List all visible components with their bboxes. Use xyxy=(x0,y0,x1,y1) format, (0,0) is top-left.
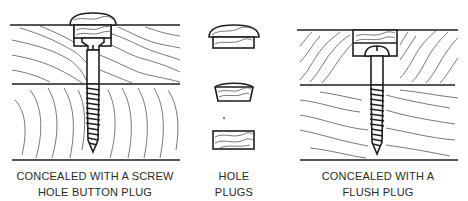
panel-hole-plugs xyxy=(209,25,259,149)
caption-line: HOLE xyxy=(200,168,268,184)
caption-button-plug: CONCEALED WITH A SCREW HOLE BUTTON PLUG xyxy=(10,168,180,200)
caption-line: CONCEALED WITH A xyxy=(300,168,456,184)
tapered-plug-loose xyxy=(215,83,253,101)
caption-hole-plugs: HOLE PLUGS xyxy=(200,168,268,200)
caption-line: FLUSH PLUG xyxy=(300,184,456,200)
caption-flush-plug: CONCEALED WITH A FLUSH PLUG xyxy=(300,168,456,200)
panel-button-plug xyxy=(10,13,180,160)
caption-line: CONCEALED WITH A SCREW xyxy=(10,168,180,184)
caption-line: HOLE BUTTON PLUG xyxy=(10,184,180,200)
dot-mark xyxy=(223,117,225,119)
screw-right xyxy=(365,46,389,154)
flush-plug-loose xyxy=(213,131,254,149)
button-plug-loose xyxy=(209,25,259,48)
caption-line: PLUGS xyxy=(200,184,268,200)
panel-flush-plug xyxy=(297,30,458,160)
